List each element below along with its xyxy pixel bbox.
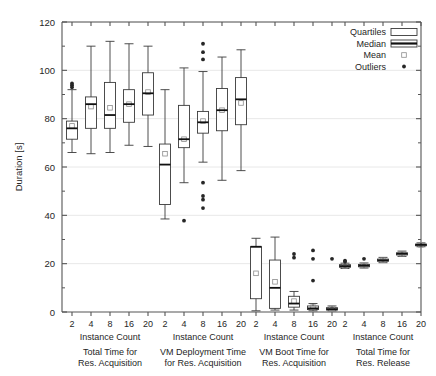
x-tick-label: 4 bbox=[181, 319, 186, 329]
y-tick-label: 20 bbox=[44, 258, 55, 269]
x-tick-label: 16 bbox=[217, 319, 227, 329]
x-tick-label: 4 bbox=[361, 319, 366, 329]
x-tick-label: 2 bbox=[342, 319, 347, 329]
group-caption-line1: Total Time for bbox=[83, 347, 137, 357]
x-tick-label: 16 bbox=[308, 319, 318, 329]
quartile-box bbox=[251, 247, 262, 299]
legend-label: Median bbox=[356, 39, 386, 49]
outlier-point bbox=[292, 256, 296, 260]
x-tick-label: 16 bbox=[397, 319, 407, 329]
outlier-point bbox=[201, 194, 205, 198]
quartile-box bbox=[124, 90, 135, 123]
legend-entry: Quartiles bbox=[350, 27, 417, 37]
y-tick-label: 40 bbox=[44, 210, 55, 221]
outlier-point bbox=[182, 219, 186, 223]
outlier-point bbox=[201, 198, 205, 202]
x-axis-title: Instance Count bbox=[264, 332, 325, 342]
outlier-point bbox=[201, 181, 205, 185]
y-tick-label: 60 bbox=[44, 162, 55, 173]
x-tick-label: 2 bbox=[253, 319, 258, 329]
group-caption-line1: Total Time for bbox=[356, 347, 410, 357]
outlier-point bbox=[362, 257, 366, 261]
outlier-point bbox=[311, 279, 315, 283]
boxplot-item bbox=[416, 243, 427, 248]
outlier-point bbox=[343, 259, 347, 263]
x-tick-label: 20 bbox=[416, 319, 426, 329]
y-axis-title: Duration [s] bbox=[13, 143, 24, 192]
legend-label: Outliers bbox=[355, 62, 387, 72]
x-tick-label: 8 bbox=[291, 319, 296, 329]
group-caption-line2: for Res. Acquisition bbox=[164, 358, 241, 368]
x-axis-title: Instance Count bbox=[80, 332, 141, 342]
legend-swatch-quartiles bbox=[391, 29, 417, 36]
group-caption-line2: Res. Acquisition bbox=[262, 358, 326, 368]
quartile-box bbox=[160, 144, 171, 204]
x-tick-label: 20 bbox=[143, 319, 153, 329]
quartile-box bbox=[236, 78, 247, 125]
x-tick-label: 2 bbox=[69, 319, 74, 329]
outlier-point bbox=[311, 248, 315, 252]
group-caption-line1: VM Deployment Time bbox=[160, 347, 246, 357]
group-caption-line2: Res. Acquisition bbox=[78, 358, 142, 368]
outlier-point bbox=[311, 257, 315, 261]
group-caption-line2: Res. Release bbox=[356, 358, 410, 368]
legend-label: Quartiles bbox=[350, 27, 387, 37]
chart-canvas: 020406080100120 2481620Instance CountTot… bbox=[0, 0, 436, 376]
x-tick-label: 8 bbox=[107, 319, 112, 329]
x-tick-label: 8 bbox=[380, 319, 385, 329]
x-tick-label: 2 bbox=[162, 319, 167, 329]
x-tick-label: 4 bbox=[272, 319, 277, 329]
outlier-point bbox=[70, 81, 74, 85]
outlier-point bbox=[201, 206, 205, 210]
x-axis-title: Instance Count bbox=[173, 332, 234, 342]
quartile-box bbox=[86, 97, 97, 128]
x-tick-label: 20 bbox=[327, 319, 337, 329]
x-tick-label: 4 bbox=[88, 319, 93, 329]
outlier-point bbox=[201, 42, 205, 46]
outlier-point bbox=[201, 50, 205, 54]
x-axis-title: Instance Count bbox=[353, 332, 414, 342]
outlier-point bbox=[201, 58, 205, 62]
outlier-point bbox=[292, 252, 296, 256]
y-tick-label: 0 bbox=[50, 307, 55, 318]
quartile-box bbox=[289, 296, 300, 307]
y-tick-label: 80 bbox=[44, 113, 55, 124]
y-tick-label: 120 bbox=[39, 17, 55, 28]
legend-swatch-outliers bbox=[402, 65, 406, 69]
legend-label: Mean bbox=[363, 50, 386, 60]
boxplot-figure: 020406080100120 2481620Instance CountTot… bbox=[0, 0, 436, 376]
group-caption-line1: VM Boot Time for bbox=[259, 347, 329, 357]
x-tick-label: 8 bbox=[200, 319, 205, 329]
outlier-point bbox=[330, 257, 334, 261]
y-tick-label: 100 bbox=[39, 65, 55, 76]
x-tick-label: 20 bbox=[236, 319, 246, 329]
x-tick-label: 16 bbox=[124, 319, 134, 329]
